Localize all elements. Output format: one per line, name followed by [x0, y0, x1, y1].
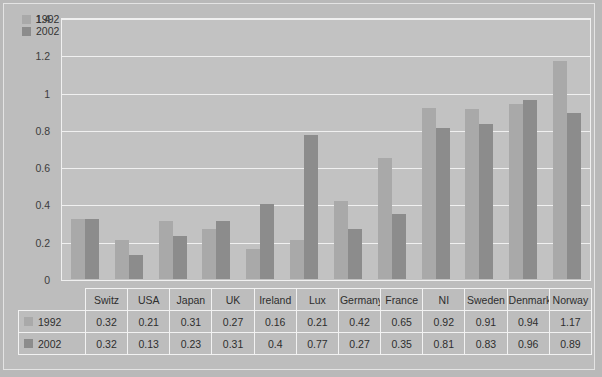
table-col-header-Sweden: Sweden — [465, 289, 507, 311]
legend-swatch-icon — [22, 15, 31, 24]
table-cell-2002-Norway: 0.89 — [549, 333, 591, 355]
table-col-header-Germany: Germany — [338, 289, 380, 311]
table-cell-2002-USA: 0.13 — [128, 333, 170, 355]
table-col-header-Lux: Lux — [296, 289, 338, 311]
table-cell-2002-Lux: 0.77 — [296, 333, 338, 355]
bar-group — [107, 20, 151, 279]
bars-layer — [63, 20, 589, 279]
bar-2002-Ireland — [260, 204, 274, 279]
bar-2002-Germany — [348, 229, 362, 279]
bar-2002-USA — [129, 255, 143, 279]
y-axis-tick-label: 1 — [44, 88, 50, 100]
table-col-header-USA: USA — [128, 289, 170, 311]
bar-group — [282, 20, 326, 279]
bar-1992-USA — [115, 240, 129, 279]
table-cell-1992-Germany: 0.42 — [338, 311, 380, 333]
y-axis-tick-label: 0.6 — [35, 162, 50, 174]
table-cell-2002-Sweden: 0.83 — [465, 333, 507, 355]
table-cell-1992-Sweden: 0.91 — [465, 311, 507, 333]
table-cell-2002-Germany: 0.27 — [338, 333, 380, 355]
bar-group — [501, 20, 545, 279]
table-cell-2002-Ireland: 0.4 — [254, 333, 296, 355]
series-swatch-icon — [24, 339, 33, 348]
bar-1992-Norway — [553, 61, 567, 279]
legend-swatch-icon — [22, 27, 31, 36]
bar-group — [63, 20, 107, 279]
legend-label: 1992 — [36, 14, 59, 24]
table-col-header-Ireland: Ireland — [254, 289, 296, 311]
bar-1992-France — [378, 158, 392, 279]
chart-screenshot: 00.20.40.60.811.21.4 19922002 SwitzUSAJa… — [0, 0, 602, 377]
bar-1992-UK — [202, 229, 216, 279]
bar-group — [414, 20, 458, 279]
bar-2002-Sweden — [479, 124, 493, 279]
table-col-header-UK: UK — [212, 289, 254, 311]
y-axis-tick-label: 0 — [44, 274, 50, 286]
plot-area — [61, 18, 591, 281]
bar-1992-NI — [422, 108, 436, 280]
table-cell-2002-Switz: 0.32 — [86, 333, 128, 355]
table-cell-1992-NI: 0.92 — [423, 311, 465, 333]
figure-frame: 00.20.40.60.811.21.4 19922002 SwitzUSAJa… — [3, 3, 595, 370]
bar-group — [545, 20, 589, 279]
table-body: 19920.320.210.310.270.160.210.420.650.92… — [19, 311, 592, 355]
bar-group — [370, 20, 414, 279]
bar-2002-UK — [216, 221, 230, 279]
bar-1992-Lux — [290, 240, 304, 279]
table-cell-1992-Ireland: 0.16 — [254, 311, 296, 333]
table-row-header-2002: 2002 — [19, 333, 86, 355]
table-cell-2002-France: 0.35 — [381, 333, 423, 355]
y-axis-tick-label: 0.4 — [35, 199, 50, 211]
table-cell-1992-UK: 0.27 — [212, 311, 254, 333]
table-cell-1992-Denmark: 0.94 — [507, 311, 549, 333]
table-cell-2002-UK: 0.31 — [212, 333, 254, 355]
legend-item-2002: 2002 — [22, 26, 59, 36]
series-name-label: 2002 — [38, 338, 61, 350]
bar-2002-Japan — [173, 236, 187, 279]
series-swatch-icon — [24, 317, 33, 326]
y-axis-tick-label: 0.2 — [35, 237, 50, 249]
table-cell-2002-Denmark: 0.96 — [507, 333, 549, 355]
table-header-row: SwitzUSAJapanUKIrelandLuxGermanyFranceNI… — [19, 289, 592, 311]
table-col-header-NI: NI — [423, 289, 465, 311]
legend-label: 2002 — [36, 26, 59, 36]
y-axis-tick-label: 1.2 — [35, 50, 50, 62]
table-col-header-Norway: Norway — [549, 289, 591, 311]
legend-item-1992: 1992 — [22, 14, 59, 24]
table-corner-cell — [19, 289, 86, 311]
bar-2002-NI — [436, 128, 450, 279]
bar-group — [151, 20, 195, 279]
bar-1992-Germany — [334, 201, 348, 279]
table-cell-1992-Lux: 0.21 — [296, 311, 338, 333]
table-col-header-France: France — [381, 289, 423, 311]
bar-group — [457, 20, 501, 279]
bar-2002-Norway — [567, 113, 581, 279]
table-row-header-1992: 1992 — [19, 311, 86, 333]
y-axis: 00.20.40.60.811.21.4 — [4, 18, 56, 281]
bar-2002-Switz — [85, 219, 99, 279]
table-cell-1992-Switz: 0.32 — [86, 311, 128, 333]
y-axis-tick-label: 0.8 — [35, 125, 50, 137]
bar-group — [326, 20, 370, 279]
table-cell-2002-NI: 0.81 — [423, 333, 465, 355]
table-col-header-Switz: Switz — [86, 289, 128, 311]
bar-1992-Ireland — [246, 249, 260, 279]
bar-2002-Lux — [304, 135, 318, 279]
table-cell-2002-Japan: 0.23 — [170, 333, 212, 355]
table-col-header-Denmark: Denmark — [507, 289, 549, 311]
bar-group — [194, 20, 238, 279]
table-cell-1992-Japan: 0.31 — [170, 311, 212, 333]
table-cell-1992-USA: 0.21 — [128, 311, 170, 333]
bar-1992-Sweden — [465, 109, 479, 279]
table-row: 20020.320.130.230.310.40.770.270.350.810… — [19, 333, 592, 355]
table-cell-1992-France: 0.65 — [381, 311, 423, 333]
series-name-label: 1992 — [38, 316, 61, 328]
bar-2002-Denmark — [523, 100, 537, 279]
bar-group — [238, 20, 282, 279]
bar-1992-Switz — [71, 219, 85, 279]
table-row: 19920.320.210.310.270.160.210.420.650.92… — [19, 311, 592, 333]
table-cell-1992-Norway: 1.17 — [549, 311, 591, 333]
bar-1992-Denmark — [509, 104, 523, 279]
bar-1992-Japan — [159, 221, 173, 279]
chart-legend: 19922002 — [22, 14, 59, 36]
